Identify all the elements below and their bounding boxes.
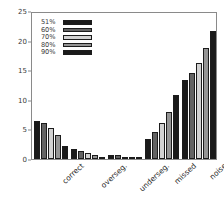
bar bbox=[48, 128, 54, 159]
bar bbox=[92, 155, 98, 159]
bar-group bbox=[181, 13, 217, 159]
y-tick-label: 0 bbox=[23, 157, 27, 164]
legend-color-swatch bbox=[63, 43, 92, 48]
legend-item-label: 90% bbox=[41, 49, 61, 56]
x-tick-label: overseg. bbox=[100, 162, 129, 190]
bar bbox=[152, 132, 158, 159]
bar bbox=[78, 151, 84, 159]
plot-area: 51%60%70%80%90% bbox=[31, 12, 217, 160]
y-tick-label: 15 bbox=[18, 68, 27, 75]
bar bbox=[159, 123, 165, 159]
bar bbox=[203, 48, 209, 159]
bar bbox=[34, 121, 40, 159]
bar bbox=[99, 157, 105, 159]
bar bbox=[136, 157, 142, 159]
y-tick-label: 25 bbox=[18, 9, 27, 16]
bar bbox=[85, 153, 91, 159]
bar bbox=[196, 63, 202, 159]
legend-color-swatch bbox=[63, 28, 92, 33]
y-tick-label: 20 bbox=[18, 38, 27, 45]
legend: 51%60%70%80%90% bbox=[40, 18, 94, 57]
bar bbox=[122, 157, 128, 159]
bar-group bbox=[106, 13, 143, 159]
bar bbox=[108, 155, 114, 159]
legend-item-label: 70% bbox=[41, 34, 61, 41]
bar bbox=[115, 155, 121, 159]
x-tick-label: underseg. bbox=[139, 162, 172, 193]
bar bbox=[189, 73, 195, 159]
bar bbox=[182, 80, 188, 159]
x-tick-label: correct bbox=[61, 162, 85, 185]
legend-item-label: 51% bbox=[41, 19, 61, 26]
x-axis-labels: correctoverseg.underseg.missednoise bbox=[31, 160, 217, 206]
bar bbox=[71, 149, 77, 159]
legend-item: 90% bbox=[41, 49, 92, 56]
bar bbox=[62, 146, 68, 159]
x-tick-label: missed bbox=[173, 162, 198, 186]
y-tick-label: 5 bbox=[23, 127, 27, 134]
bar bbox=[210, 31, 216, 159]
legend-color-swatch bbox=[63, 50, 92, 55]
bar bbox=[41, 123, 47, 159]
bar bbox=[55, 135, 61, 159]
bar bbox=[145, 139, 151, 159]
legend-color-swatch bbox=[63, 20, 92, 25]
bar-group bbox=[144, 13, 181, 159]
bar bbox=[166, 112, 172, 159]
x-tick-label: noise bbox=[208, 162, 224, 181]
y-tick-label: 10 bbox=[18, 97, 27, 104]
bar bbox=[173, 95, 179, 159]
bar bbox=[129, 157, 135, 159]
legend-color-swatch bbox=[63, 35, 92, 40]
bar-chart-figure: 0510152025 51%60%70%80%90% correctoverse… bbox=[0, 0, 224, 206]
y-axis: 0510152025 bbox=[0, 12, 31, 160]
